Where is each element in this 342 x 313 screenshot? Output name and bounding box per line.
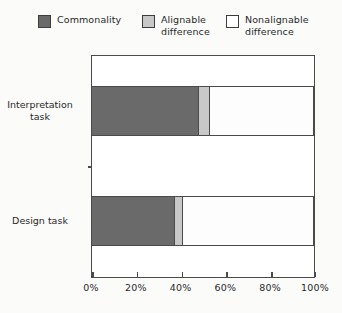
legend-label-alignable-difference: Alignable difference: [161, 14, 210, 37]
stacked-bar-chart-figure: Commonality Alignable difference Nonalig…: [0, 0, 342, 313]
legend-label-nonalignable-difference: Nonalignable difference: [245, 14, 309, 37]
legend-item-nonalignable-difference: Nonalignable difference: [226, 14, 334, 37]
category-label-design-task: Design task: [0, 215, 83, 227]
plot-area: Interpretation task Design task: [91, 55, 315, 278]
segment-nonalignable-difference: [209, 86, 314, 136]
x-axis-tick-label: 0%: [83, 282, 98, 293]
legend-item-commonality: Commonality: [38, 14, 142, 28]
segment-nonalignable-difference: [182, 196, 314, 246]
x-axis-tick: [315, 272, 317, 277]
x-axis-tick-label: 80%: [259, 282, 281, 293]
legend-item-alignable-difference: Alignable difference: [142, 14, 226, 37]
segment-commonality: [91, 196, 176, 246]
x-axis-tick: [271, 272, 273, 277]
x-axis-tick: [182, 272, 184, 277]
light-gray-swatch-icon: [142, 15, 155, 28]
category-label-interpretation-task: Interpretation task: [0, 99, 83, 123]
dark-gray-swatch-icon: [38, 15, 51, 28]
category-axis-tick: [88, 166, 92, 168]
x-axis-tick-label: 20%: [125, 282, 147, 293]
bar-interpretation-task: Interpretation task: [92, 86, 316, 136]
legend-label-commonality: Commonality: [57, 14, 121, 26]
x-axis-tick: [226, 272, 228, 277]
x-axis-tick: [92, 272, 94, 277]
segment-commonality: [91, 86, 200, 136]
chart-legend: Commonality Alignable difference Nonalig…: [38, 14, 334, 46]
x-axis-tick-label: 40%: [170, 282, 192, 293]
bar-design-task: Design task: [92, 196, 316, 246]
x-axis-tick: [137, 272, 139, 277]
white-swatch-icon: [226, 15, 239, 28]
x-axis-tick-label: 60%: [215, 282, 237, 293]
x-axis-tick-label: 100%: [301, 282, 329, 293]
